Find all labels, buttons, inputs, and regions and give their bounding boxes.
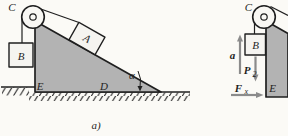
fbd-pulley-hub — [261, 14, 267, 20]
free-body-diagram: C B a P 2 F x E — [230, 1, 288, 99]
label-weight-p: P — [244, 64, 251, 76]
fbd-label-point-e: E — [268, 82, 276, 94]
fbd-label-block-b: B — [252, 39, 259, 51]
acceleration-arrowhead — [237, 35, 243, 42]
caption-a: a) — [91, 119, 101, 132]
figure-svg: C B A E D α a) C B a P 2 F x — [0, 0, 288, 136]
label-angle-alpha: α — [129, 69, 135, 81]
ledge-hatching — [2, 88, 29, 96]
incline-system-diagram: C B A E D α a) — [1, 1, 190, 133]
wedge — [35, 21, 161, 92]
pulley-hub — [30, 14, 36, 20]
label-force-f: F — [234, 82, 243, 94]
label-force-sub: x — [244, 87, 249, 96]
ground-hatching — [29, 93, 190, 102]
label-acceleration: a — [230, 49, 236, 61]
fbd-label-pulley-c: C — [245, 1, 253, 13]
force-x-arrowhead — [256, 92, 264, 98]
label-block-b: B — [18, 50, 25, 62]
label-point-e: E — [36, 80, 44, 92]
label-pulley-c: C — [8, 1, 16, 13]
label-weight-sub: 2 — [253, 70, 257, 79]
label-point-d: D — [99, 80, 108, 92]
physics-figure: C B A E D α a) C B a P 2 F x — [0, 0, 288, 136]
